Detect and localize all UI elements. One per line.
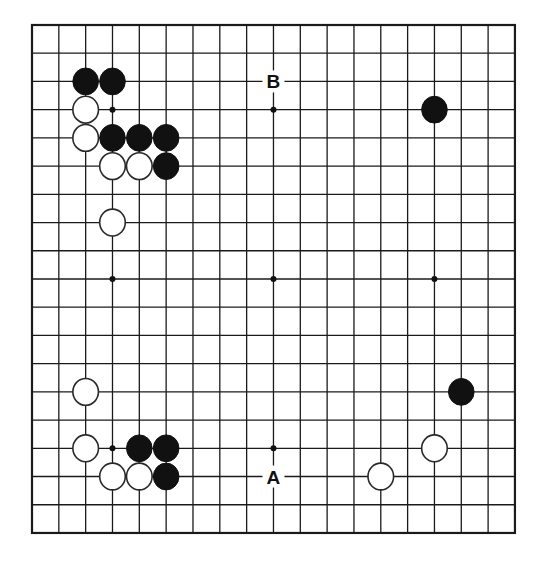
point-label-b: B bbox=[267, 71, 281, 92]
point-label-a: A bbox=[267, 467, 281, 488]
black-stone[interactable] bbox=[127, 124, 153, 151]
white-stone[interactable] bbox=[100, 463, 126, 490]
black-stone[interactable] bbox=[153, 435, 179, 462]
black-stone[interactable] bbox=[153, 124, 179, 151]
black-stone[interactable] bbox=[153, 463, 179, 490]
black-stone[interactable] bbox=[153, 153, 179, 180]
white-stone[interactable] bbox=[73, 435, 99, 462]
black-stone[interactable] bbox=[448, 378, 474, 405]
white-stone[interactable] bbox=[100, 209, 126, 236]
black-stone[interactable] bbox=[100, 124, 126, 151]
go-board: BA bbox=[0, 0, 548, 569]
black-stone[interactable] bbox=[73, 68, 99, 95]
star-point bbox=[270, 107, 276, 113]
white-stone[interactable] bbox=[127, 153, 153, 180]
white-stone[interactable] bbox=[100, 153, 126, 180]
white-stone[interactable] bbox=[73, 124, 99, 151]
white-stone[interactable] bbox=[127, 463, 153, 490]
star-point bbox=[431, 276, 437, 282]
black-stone[interactable] bbox=[127, 435, 153, 462]
black-stone[interactable] bbox=[100, 68, 126, 95]
star-point bbox=[109, 445, 115, 451]
star-point bbox=[109, 276, 115, 282]
black-stone[interactable] bbox=[422, 96, 448, 123]
white-stone[interactable] bbox=[73, 96, 99, 123]
star-point bbox=[109, 107, 115, 113]
white-stone[interactable] bbox=[422, 435, 448, 462]
white-stone[interactable] bbox=[368, 463, 394, 490]
star-point bbox=[270, 276, 276, 282]
white-stone[interactable] bbox=[73, 378, 99, 405]
star-point bbox=[270, 445, 276, 451]
